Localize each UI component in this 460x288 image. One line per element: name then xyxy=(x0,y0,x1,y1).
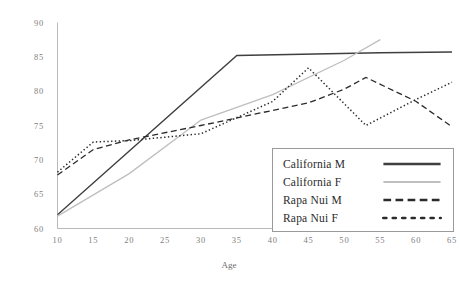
x-tick-label: 20 xyxy=(124,235,134,245)
y-tick-label: 80 xyxy=(34,86,44,96)
y-tick-label: 65 xyxy=(34,189,44,199)
legend-swatch-california-f xyxy=(379,176,445,188)
x-tick-label: 50 xyxy=(339,235,349,245)
legend-item-label: California F xyxy=(283,176,379,188)
legend-item: California F xyxy=(283,173,445,191)
x-axis-title: Age xyxy=(222,260,237,270)
y-tick-label: 75 xyxy=(34,121,44,131)
legend-swatch-california-m xyxy=(379,158,445,170)
legend-item-label: Rapa Nui M xyxy=(283,194,379,206)
y-tick-label: 90 xyxy=(34,18,44,28)
x-tick-labels: 101520253035404550556065 xyxy=(52,235,457,245)
legend-item: California M xyxy=(283,155,445,173)
legend-swatch-rapa-nui-f xyxy=(379,212,445,224)
x-tick-label: 10 xyxy=(52,235,62,245)
x-tick-label: 25 xyxy=(160,235,170,245)
legend-swatch-rapa-nui-m xyxy=(379,194,445,206)
y-tick-label: 60 xyxy=(34,224,44,234)
x-tick-label: 65 xyxy=(447,235,457,245)
x-tick-label: 15 xyxy=(88,235,98,245)
y-tick-labels: 90858075706560 xyxy=(34,18,44,234)
legend-item-label: Rapa Nui F xyxy=(283,212,379,224)
x-tick-label: 55 xyxy=(375,235,385,245)
x-tick-label: 60 xyxy=(411,235,421,245)
legend-item: Rapa Nui F xyxy=(283,209,445,227)
y-tick-label: 85 xyxy=(34,52,44,62)
y-tick-label: 70 xyxy=(34,155,44,165)
plot-canvas: 90858075706560 101520253035404550556065 … xyxy=(0,0,460,288)
x-tick-label: 30 xyxy=(196,235,206,245)
legend-item-label: California M xyxy=(283,158,379,170)
x-tick-label: 45 xyxy=(303,235,313,245)
x-tick-label: 40 xyxy=(268,235,278,245)
x-tick-label: 35 xyxy=(232,235,242,245)
legend-item: Rapa Nui M xyxy=(283,191,445,209)
legend: California M California F Rapa Nui M Rap… xyxy=(272,148,454,232)
line-chart: 90858075706560 101520253035404550556065 … xyxy=(0,0,460,288)
